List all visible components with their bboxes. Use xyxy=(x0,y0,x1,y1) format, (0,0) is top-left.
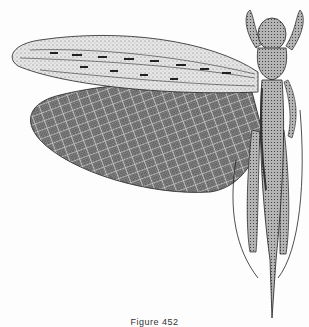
figure-caption: Figure 452 xyxy=(0,317,309,327)
locust-illustration xyxy=(0,0,309,327)
figure-page: Figure 452 xyxy=(0,0,309,327)
thorax xyxy=(257,48,286,80)
head xyxy=(258,18,286,50)
hindwing xyxy=(30,83,262,192)
mid-right-leg xyxy=(284,80,296,138)
front-right-leg xyxy=(286,10,303,50)
abdomen xyxy=(260,80,283,318)
